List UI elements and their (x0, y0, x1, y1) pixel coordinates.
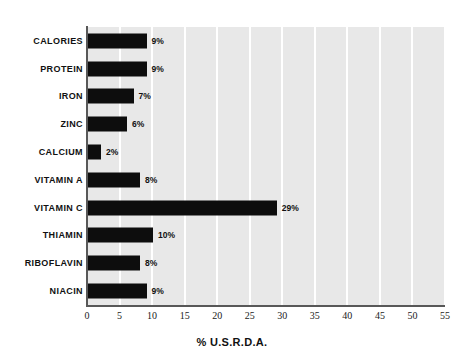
bar-row: PROTEIN9% (0, 55, 464, 83)
bar-row: VITAMIN C29% (0, 194, 464, 222)
x-tick-label: 45 (375, 310, 385, 321)
x-tick-label: 25 (245, 310, 255, 321)
bar-value-label: 6% (132, 119, 144, 129)
category-label: ZINC (60, 119, 83, 129)
x-tick-label: 15 (180, 310, 190, 321)
category-label: IRON (59, 91, 83, 101)
x-tick-label: 50 (407, 310, 417, 321)
x-tick-label: 5 (117, 310, 122, 321)
category-label: CALORIES (33, 36, 83, 46)
bar (88, 200, 277, 215)
bar-value-label: 9% (152, 36, 164, 46)
x-axis-line (86, 305, 445, 307)
bar-row: RIBOFLAVIN8% (0, 249, 464, 277)
bar-value-label: 2% (106, 147, 118, 157)
category-label: CALCIUM (39, 147, 83, 157)
bar-row: VITAMIN A8% (0, 166, 464, 194)
bar-row: THIAMIN10% (0, 222, 464, 250)
bar (88, 117, 127, 132)
x-tick-label: 30 (277, 310, 287, 321)
bar-row: ZINC6% (0, 110, 464, 138)
x-tick-label: 20 (212, 310, 222, 321)
bar (88, 228, 153, 243)
bar (88, 33, 147, 48)
x-tick-label: 0 (85, 310, 90, 321)
category-label: VITAMIN C (34, 203, 83, 213)
bar-row: CALCIUM2% (0, 138, 464, 166)
bar-chart: CALORIES9%PROTEIN9%IRON7%ZINC6%CALCIUM2%… (0, 0, 464, 362)
bar-value-label: 8% (145, 175, 157, 185)
x-tick-label: 55 (440, 310, 450, 321)
bar-row: IRON7% (0, 83, 464, 111)
category-label: THIAMIN (43, 230, 83, 240)
bar (88, 61, 147, 76)
bar-value-label: 10% (158, 230, 175, 240)
bar-row: CALORIES9% (0, 27, 464, 55)
bar-row: NIACIN9% (0, 277, 464, 305)
bar (88, 284, 147, 299)
category-label: VITAMIN A (34, 175, 83, 185)
x-tick-label: 35 (310, 310, 320, 321)
bar-value-label: 9% (152, 64, 164, 74)
bar (88, 256, 140, 271)
category-label: RIBOFLAVIN (25, 258, 83, 268)
x-axis-title: % U.S.R.D.A. (0, 336, 464, 348)
bar-value-label: 29% (282, 203, 299, 213)
bar (88, 145, 101, 160)
category-label: NIACIN (50, 286, 83, 296)
category-label: PROTEIN (40, 64, 83, 74)
bar (88, 89, 134, 104)
x-tick-label: 40 (342, 310, 352, 321)
bar-value-label: 7% (139, 91, 151, 101)
bar-value-label: 8% (145, 258, 157, 268)
x-tick-label: 10 (147, 310, 157, 321)
bar (88, 172, 140, 187)
bar-value-label: 9% (152, 286, 164, 296)
